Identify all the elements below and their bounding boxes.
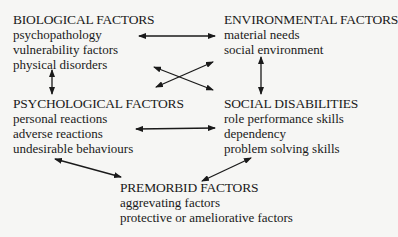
arrow-environmental-psychological [156,62,213,87]
node-title: PREMORBID FACTORS [120,180,293,195]
node-item: role performance skills [224,111,358,126]
node-item: aggrevating factors [120,195,293,210]
node-item: protective or ameliorative factors [120,210,293,225]
node-social-disabilities: SOCIAL DISABILITIES role performance ski… [224,96,358,156]
arrow-biological-social [154,67,213,90]
arrow-psychological-premorbid [55,159,121,177]
node-psychological-factors: PSYCHOLOGICAL FACTORS personal reactions… [13,96,184,156]
node-item: psychopathology [13,27,154,42]
node-item: material needs [224,27,398,42]
node-title: PSYCHOLOGICAL FACTORS [13,96,184,111]
node-item: dependency [224,126,358,141]
node-title: ENVIRONMENTAL FACTORS [224,12,398,27]
node-environmental-factors: ENVIRONMENTAL FACTORS material needs soc… [224,12,398,57]
node-premorbid-factors: PREMORBID FACTORS aggrevating factors pr… [120,180,293,225]
node-item: physical disorders [13,57,154,72]
node-item: personal reactions [13,111,184,126]
node-item: problem solving skills [224,141,358,156]
node-item: adverse reactions [13,126,184,141]
node-item: undesirable behaviours [13,141,184,156]
arrow-social-premorbid [202,158,251,181]
node-biological-factors: BIOLOGICAL FACTORS psychopathology vulne… [13,12,154,72]
node-title: SOCIAL DISABILITIES [224,96,358,111]
node-item: vulnerability factors [13,42,154,57]
node-item: social environment [224,42,398,57]
node-title: BIOLOGICAL FACTORS [13,12,154,27]
